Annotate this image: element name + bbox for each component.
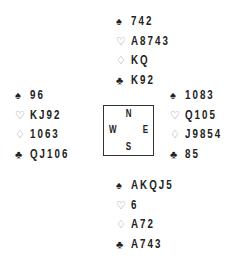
club-icon: ♣ [116, 235, 131, 255]
north-spades: 742 [131, 12, 153, 32]
west-spades-row: ♠ 96 [15, 86, 81, 106]
west-clubs: QJ106 [30, 145, 69, 165]
compass-west-label: W [109, 124, 117, 135]
south-hearts: 6 [131, 196, 138, 216]
east-clubs-row: ♣ 85 [170, 145, 233, 165]
south-spades: AKQJ5 [131, 176, 174, 196]
diamond-icon: ♢ [170, 125, 185, 145]
east-diamonds-row: ♢ J9854 [170, 125, 233, 145]
club-icon: ♣ [15, 145, 30, 165]
south-hand: ♠ AKQJ5 ♡ 6 ♢ A72 ♣ A743 [116, 176, 186, 254]
club-icon: ♣ [116, 71, 131, 91]
heart-icon: ♡ [170, 106, 185, 126]
north-hand: ♠ 742 ♡ A8743 ♢ KQ ♣ K92 [116, 12, 181, 90]
diamond-icon: ♢ [15, 125, 30, 145]
north-clubs: K92 [131, 71, 155, 91]
north-spades-row: ♠ 742 [116, 12, 181, 32]
heart-icon: ♡ [15, 106, 30, 126]
south-diamonds: A72 [131, 215, 155, 235]
spade-icon: ♠ [170, 86, 185, 106]
east-clubs: 85 [185, 145, 200, 165]
spade-icon: ♠ [116, 176, 131, 196]
east-diamonds: J9854 [185, 125, 222, 145]
west-hand: ♠ 96 ♡ KJ92 ♢ 1063 ♣ QJ106 [15, 86, 81, 164]
north-hearts: A8743 [131, 32, 170, 52]
club-icon: ♣ [170, 145, 185, 165]
compass-box: N W E S [103, 105, 154, 156]
heart-icon: ♡ [116, 196, 131, 216]
diamond-icon: ♢ [116, 51, 131, 71]
east-hearts-row: ♡ Q105 [170, 106, 233, 126]
spade-icon: ♠ [116, 12, 131, 32]
compass-south-label: S [126, 141, 131, 152]
north-hearts-row: ♡ A8743 [116, 32, 181, 52]
west-diamonds-row: ♢ 1063 [15, 125, 81, 145]
south-clubs-row: ♣ A743 [116, 235, 186, 255]
west-diamonds: 1063 [30, 125, 60, 145]
east-spades-row: ♠ 1083 [170, 86, 233, 106]
compass-north-label: N [126, 108, 132, 119]
diamond-icon: ♢ [116, 215, 131, 235]
south-hearts-row: ♡ 6 [116, 196, 186, 216]
north-diamonds: KQ [131, 51, 150, 71]
east-spades: 1083 [185, 86, 215, 106]
spade-icon: ♠ [15, 86, 30, 106]
south-diamonds-row: ♢ A72 [116, 215, 186, 235]
compass-east-label: E [143, 124, 148, 135]
west-clubs-row: ♣ QJ106 [15, 145, 81, 165]
north-diamonds-row: ♢ KQ [116, 51, 181, 71]
east-hand: ♠ 1083 ♡ Q105 ♢ J9854 ♣ 85 [170, 86, 233, 164]
south-clubs: A743 [131, 235, 162, 255]
west-hearts: KJ92 [30, 106, 61, 126]
heart-icon: ♡ [116, 32, 131, 52]
west-hearts-row: ♡ KJ92 [15, 106, 81, 126]
west-spades: 96 [30, 86, 45, 106]
south-spades-row: ♠ AKQJ5 [116, 176, 186, 196]
east-hearts: Q105 [185, 106, 217, 126]
